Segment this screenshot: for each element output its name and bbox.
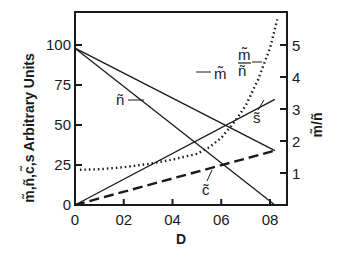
- label-ratio-den: ñ: [238, 62, 246, 79]
- y-axis-title: m̃,ñ,c̃,s Arbitrary Units: [20, 53, 37, 203]
- y-right-tick-label: 5: [292, 37, 300, 54]
- x-tick-label: 06: [213, 211, 230, 228]
- y-tick-label: 25: [54, 156, 71, 173]
- y-right-title-text: m̃/ñ: [309, 113, 325, 138]
- y-right-tick-label: 2: [292, 133, 300, 150]
- y-tick-label: 0: [63, 196, 71, 213]
- y-tick-label: 100: [46, 36, 71, 53]
- label-ratio-num: m̃: [238, 46, 251, 63]
- x-axis-title: D: [176, 231, 186, 247]
- y-right-axis-title: m̃/ñ: [309, 113, 325, 138]
- y-tick-label: 50: [54, 116, 71, 133]
- series-ratio-line: [80, 19, 277, 169]
- label-m: m̃: [214, 65, 227, 82]
- label-c: c̃: [202, 181, 210, 198]
- x-tick-label: 0: [71, 211, 79, 228]
- y-right-tick-label: 4: [292, 69, 300, 86]
- y-right-tick-label: 1: [292, 165, 300, 182]
- y-right-tick-label: 3: [292, 101, 300, 118]
- chart: 002040608025507510012345 m̃ ñ s̃ c̃ m̃ ñ…: [0, 0, 348, 264]
- x-tick-label: 08: [262, 211, 279, 228]
- label-n: ñ: [116, 91, 124, 108]
- series-s-line: [75, 99, 275, 205]
- x-tick-label: 02: [115, 211, 132, 228]
- axis-ticks: 002040608025507510012345: [46, 36, 300, 228]
- label-s: s̃: [253, 109, 261, 126]
- leader-c: [207, 170, 212, 181]
- x-tick-label: 04: [164, 211, 181, 228]
- y-tick-label: 75: [54, 76, 71, 93]
